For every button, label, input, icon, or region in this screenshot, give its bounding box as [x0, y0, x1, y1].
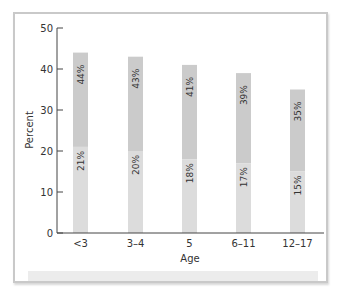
bar-total-label: 41% [185, 76, 195, 96]
x-axis: <33–456–1112–17 [57, 233, 324, 249]
bar-lower-label: 18% [185, 163, 195, 183]
x-tick-label: 5 [186, 238, 192, 249]
x-tick-label: 3–4 [127, 238, 145, 249]
x-axis-label: Age [180, 253, 199, 264]
y-tick-label: 0 [47, 228, 53, 239]
bar-lower-label: 15% [293, 175, 303, 195]
y-tick-label: 30 [40, 105, 53, 116]
bar-group: 41%18% [182, 65, 197, 233]
bar-chart: 01020304050 44%21%43%20%41%18%39%17%35%1… [0, 0, 341, 292]
y-tick-label: 50 [40, 23, 53, 34]
bar-total-label: 44% [76, 64, 86, 84]
bars: 44%21%43%20%41%18%39%17%35%15% [73, 53, 305, 233]
bar-lower-label: 20% [131, 155, 141, 175]
x-tick-label: 12–17 [282, 238, 312, 249]
bar-lower-label: 21% [76, 150, 86, 170]
bar-group: 39%17% [236, 73, 251, 233]
x-tick-label: <3 [73, 238, 88, 249]
y-tick-label: 20 [40, 146, 53, 157]
y-tick-label: 10 [40, 187, 53, 198]
y-axis: 01020304050 [40, 23, 63, 239]
bar-lower-label: 17% [239, 167, 249, 187]
bar-group: 44%21% [73, 53, 88, 233]
bar-total-label: 39% [239, 85, 249, 105]
bar-total-label: 35% [293, 101, 303, 121]
bar-group: 35%15% [290, 90, 305, 234]
x-tick-label: 6–11 [231, 238, 255, 249]
y-tick-label: 40 [40, 64, 53, 75]
bar-total-label: 43% [131, 68, 141, 88]
bar-group: 43%20% [128, 57, 143, 233]
y-axis-label: Percent [24, 111, 35, 149]
